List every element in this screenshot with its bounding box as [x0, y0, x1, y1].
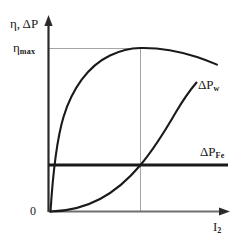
winding-loss-label-base: ΔP: [198, 77, 214, 92]
winding-loss-curve-label: ΔPw: [198, 78, 220, 91]
eta-max-base: η: [13, 40, 20, 55]
winding-loss-curve: [51, 83, 197, 212]
y-axis-arrow-icon: [44, 15, 52, 26]
eta-max-subscript: max: [20, 47, 35, 56]
x-axis-title: I2: [213, 220, 222, 233]
winding-loss-label-subscript: w: [214, 84, 220, 93]
iron-loss-label-base: ΔP: [200, 144, 216, 159]
iron-loss-curve-label: ΔPFe: [200, 145, 224, 158]
x-axis-title-subscript: 2: [217, 226, 221, 235]
efficiency-loss-chart: η, ΔP ηmax 0 I2 ΔPw ΔPFe: [0, 0, 243, 242]
chart-plot-area: [0, 0, 243, 242]
y-axis-title: η, ΔP: [10, 17, 38, 30]
efficiency-curve: [51, 48, 218, 212]
origin-label: 0: [30, 205, 36, 217]
eta-max-tick-label: ηmax: [13, 41, 35, 54]
x-axis-arrow-icon: [219, 207, 230, 215]
iron-loss-label-subscript: Fe: [216, 151, 225, 160]
